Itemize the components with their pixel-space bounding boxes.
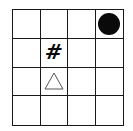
board-cell-0-3[interactable] [96, 10, 124, 39]
board-cell-3-3[interactable] [96, 96, 124, 125]
filled-circle-icon [98, 13, 120, 35]
board-cell-2-1[interactable] [41, 68, 69, 97]
board-cell-3-2[interactable] [68, 96, 96, 125]
triangle-outline-icon [44, 72, 64, 90]
board-cell-0-1[interactable] [41, 10, 69, 39]
game-board: # [12, 9, 124, 126]
board-cell-3-0[interactable] [13, 96, 41, 125]
hash-icon: # [43, 42, 64, 63]
board-cell-0-2[interactable] [68, 10, 96, 39]
board-cell-3-1[interactable] [41, 96, 69, 125]
board-cell-2-3[interactable] [96, 68, 124, 97]
board-cell-0-0[interactable] [13, 10, 41, 39]
board-cell-1-2[interactable] [68, 39, 96, 68]
board-cell-1-1[interactable]: # [41, 39, 69, 68]
board-cell-1-0[interactable] [13, 39, 41, 68]
board-cell-2-2[interactable] [68, 68, 96, 97]
board-cell-1-3[interactable] [96, 39, 124, 68]
board-cell-2-0[interactable] [13, 68, 41, 97]
